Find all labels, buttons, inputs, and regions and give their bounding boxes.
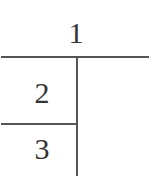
vertical-divider-line	[76, 56, 78, 176]
top-divider-line	[1, 56, 149, 58]
left-lower-node-label: 3	[27, 134, 57, 164]
left-divider-line	[1, 123, 77, 125]
top-node-label: 1	[61, 18, 91, 48]
left-upper-node-label: 2	[27, 78, 57, 108]
